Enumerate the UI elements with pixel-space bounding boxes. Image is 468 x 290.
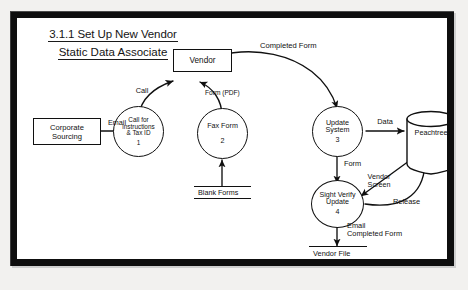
entity-corporate-sourcing-label-line1: Corporate bbox=[50, 123, 84, 132]
page-subtitle: Static Data Associate bbox=[58, 46, 169, 60]
datastore-blank-forms-label: Blank Forms bbox=[198, 188, 238, 197]
process-1-number: 1 bbox=[137, 139, 141, 146]
process-1-label-line3: & Tax ID bbox=[122, 130, 154, 137]
diagram-title-block: 3.1.1 Set Up New Vendor Static Data Asso… bbox=[33, 24, 193, 60]
screenshot-root: 3.1.1 Set Up New Vendor Static Data Asso… bbox=[0, 0, 468, 290]
process-3-label-line2: System bbox=[326, 126, 350, 133]
process-3-update-system[interactable]: Update System 3 bbox=[312, 106, 363, 157]
datastore-blank-forms[interactable]: Blank Forms bbox=[194, 186, 251, 199]
process-4-sight-verify-update[interactable]: Sight Verify Update 4 bbox=[311, 180, 364, 228]
process-4-number: 4 bbox=[336, 208, 340, 216]
process-1-call-for-instructions[interactable]: Call for instructions & Tax ID 1 bbox=[113, 106, 164, 157]
peachtree-database bbox=[407, 112, 447, 175]
process-3-number: 3 bbox=[336, 135, 340, 144]
process-2-fax-form[interactable]: Fax Form 2 bbox=[197, 108, 248, 159]
process-2-label-line1: Fax Form bbox=[207, 122, 238, 129]
process-2-number: 2 bbox=[221, 136, 225, 145]
entity-corporate-sourcing[interactable]: Corporate Sourcing bbox=[33, 118, 101, 145]
diagram-canvas: 3.1.1 Set Up New Vendor Static Data Asso… bbox=[17, 18, 447, 259]
flow-line-vendor-screen bbox=[361, 161, 409, 196]
page-title: 3.1.1 Set Up New Vendor bbox=[48, 28, 177, 42]
entity-vendor-label: Vendor bbox=[190, 56, 216, 65]
datastore-vendor-file-label: Vendor File bbox=[313, 249, 350, 258]
process-4-label-line2: Update bbox=[320, 199, 356, 206]
datastore-vendor-file[interactable]: Vendor File bbox=[309, 246, 367, 259]
database-peachtree-label: Peachtree bbox=[407, 128, 447, 137]
entity-corporate-sourcing-label-line2: Sourcing bbox=[50, 132, 84, 141]
entity-vendor[interactable]: Vendor bbox=[173, 49, 232, 72]
